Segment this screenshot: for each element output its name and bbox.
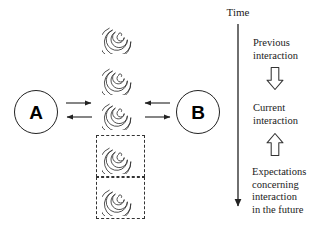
- interaction-spiral-past-2: [102, 18, 138, 54]
- actor-circle-a: A: [14, 90, 58, 134]
- time-axis-label: Time: [214, 6, 262, 19]
- interaction-spiral-current: [102, 94, 138, 130]
- note-current-interaction: Current interaction: [253, 102, 298, 127]
- actor-label-a: A: [29, 103, 43, 122]
- block-arrow-down-icon: [262, 66, 288, 92]
- actor-circle-b: B: [176, 90, 220, 134]
- diagram-canvas: A B: [0, 0, 323, 231]
- interaction-spiral-future-1: [102, 138, 138, 174]
- actor-label-b: B: [191, 103, 205, 122]
- note-previous-interaction: Previous interaction: [253, 37, 298, 62]
- interaction-spiral-future-2: [102, 180, 138, 216]
- block-arrow-up-icon: [262, 131, 288, 157]
- interaction-spiral-past-1: [102, 59, 138, 95]
- note-future-expectations: Expectations concerning interaction in t…: [252, 166, 306, 216]
